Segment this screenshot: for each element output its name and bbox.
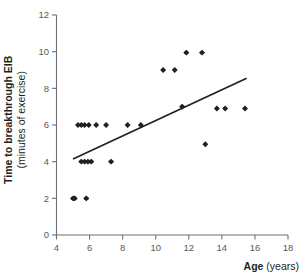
data-point-marker	[222, 106, 228, 112]
data-point-marker	[172, 67, 178, 73]
x-tick-label: 18	[283, 242, 294, 253]
data-point-marker	[83, 195, 89, 201]
data-point-marker	[88, 159, 94, 165]
scatter-chart: 4681012141618 024681012 Age (years) Time…	[0, 0, 305, 275]
x-tick-label: 14	[217, 242, 228, 253]
x-tick-label: 16	[250, 242, 261, 253]
y-tick-label: 10	[38, 46, 49, 57]
data-point-marker	[242, 106, 248, 112]
data-point-marker	[214, 106, 220, 112]
data-point-marker	[202, 141, 208, 147]
y-tick-label: 0	[44, 229, 49, 240]
y-axis-title-sub: (minutes of exercise)	[15, 56, 28, 184]
data-point-marker	[108, 159, 114, 165]
data-point-marker	[183, 50, 189, 56]
x-tick-label: 6	[87, 242, 92, 253]
y-tick-label: 4	[44, 156, 49, 167]
y-axis-title: Time to breakthrough EIB (minutes of exe…	[0, 0, 32, 240]
x-tick-label: 8	[120, 242, 125, 253]
x-axis-title: Age (years)	[244, 260, 299, 272]
data-point-marker	[103, 122, 109, 128]
trend-line-segment	[73, 78, 247, 159]
y-tick-label: 6	[44, 119, 49, 130]
trend-line	[73, 78, 247, 159]
x-axis-title-rest: (years)	[263, 260, 299, 272]
data-point-marker	[93, 122, 99, 128]
plot-area: 4681012141618 024681012	[0, 0, 305, 275]
x-axis: 4681012141618	[54, 235, 293, 253]
y-tick-label: 2	[44, 193, 49, 204]
x-tick-label: 10	[150, 242, 161, 253]
x-tick-label: 4	[54, 242, 59, 253]
data-point-marker	[160, 67, 166, 73]
data-point-marker	[125, 122, 131, 128]
y-tick-label: 12	[38, 9, 49, 20]
data-point-marker	[86, 122, 92, 128]
y-tick-label: 8	[44, 83, 49, 94]
data-point-marker	[199, 50, 205, 56]
x-tick-label: 12	[183, 242, 194, 253]
y-axis-title-bold: Time to breakthrough EIB	[2, 56, 15, 184]
data-points	[70, 50, 248, 202]
x-axis-title-bold: Age	[244, 260, 264, 272]
y-axis: 024681012	[38, 9, 56, 240]
